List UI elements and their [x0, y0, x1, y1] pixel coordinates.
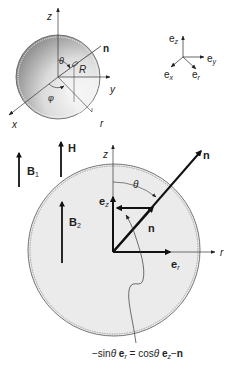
B1-label: B1	[27, 165, 39, 178]
z-label-main: z	[102, 149, 108, 160]
ey-basis-label: ey	[207, 53, 217, 66]
r-label-small: r	[100, 118, 104, 129]
R-label: R	[79, 64, 86, 75]
H-label: H	[68, 142, 76, 154]
er-basis-arrow	[183, 57, 196, 69]
er-basis-label: er	[192, 69, 201, 81]
y-label-small: y	[109, 84, 116, 95]
ex-basis-label: ex	[164, 69, 174, 81]
phi-label: φ	[48, 93, 54, 103]
z-label-small: z	[46, 11, 52, 22]
ez-basis-label: ez	[169, 33, 179, 45]
n-inner-label: n	[148, 222, 155, 234]
equation-label: −sinθ er = cosθ ez−n	[92, 348, 183, 360]
r-label-main: r	[220, 247, 224, 258]
ex-basis-arrow	[171, 57, 183, 67]
top-sphere: z y x r n R θ φ	[9, 8, 116, 130]
n-label-small: n	[103, 43, 109, 54]
basis-frame: ez ey ex er	[164, 33, 217, 81]
x-label-small: x	[11, 119, 18, 130]
n-outer-label: n	[203, 149, 210, 161]
main-section: B2 z r θ n ez n er	[28, 145, 224, 343]
theta-label-main: θ	[133, 179, 139, 190]
theta-label-small: θ	[59, 56, 64, 66]
diagram-canvas: z y x r n R θ φ ez ey ex er B1 H B2 z r	[0, 0, 236, 378]
